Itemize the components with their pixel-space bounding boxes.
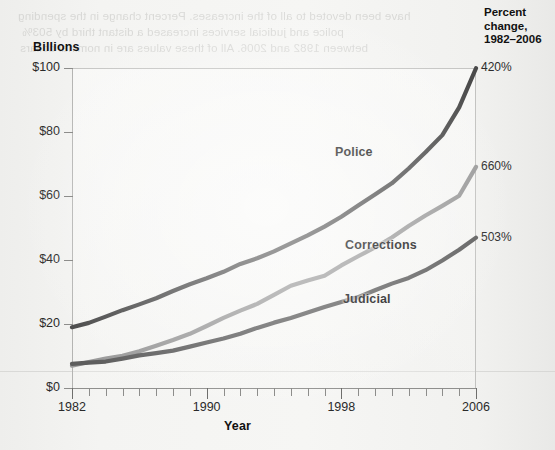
y-axis-tick: [64, 132, 73, 133]
percent-change-police: 420%: [481, 60, 512, 74]
y-axis-tick-label: $40: [39, 252, 60, 266]
right-axis-title-line-1: Percent: [484, 6, 552, 20]
x-axis-tick: [207, 388, 208, 399]
x-axis-tick: [240, 388, 241, 396]
x-axis-tick: [190, 388, 191, 396]
y-axis-tick: [64, 196, 73, 197]
x-axis-tick: [375, 388, 376, 396]
y-axis-tick-label: $80: [39, 124, 60, 138]
y-axis-tick-label: $20: [39, 316, 60, 330]
ghost-text-line-2: police and judicial services increased a…: [22, 26, 344, 38]
x-axis-tick: [358, 388, 359, 396]
x-axis-tick-label: 1982: [58, 400, 86, 414]
x-axis-tick: [72, 388, 73, 399]
x-axis-tick: [308, 388, 309, 396]
x-axis-tick: [459, 388, 460, 396]
series-label-corrections: Corrections: [345, 238, 417, 252]
x-axis-tick: [392, 388, 393, 396]
x-axis-tick: [139, 388, 140, 396]
x-axis-tick: [476, 388, 477, 399]
x-axis-tick-label: 1990: [193, 400, 221, 414]
y-axis-tick-label: $100: [32, 60, 60, 74]
x-axis-tick: [426, 388, 427, 396]
series-label-judicial: Judicial: [343, 292, 391, 306]
ghost-text-line-1: have been devoted to all of the increase…: [18, 10, 410, 22]
y-axis-tick-label: $0: [46, 380, 60, 394]
series-label-police: Police: [335, 145, 373, 159]
x-axis-tick-label: 2006: [462, 400, 490, 414]
x-axis-tick: [224, 388, 225, 396]
x-axis-tick: [325, 388, 326, 396]
plot-top-border: [72, 68, 476, 69]
x-axis-tick: [123, 388, 124, 396]
y-axis-labels: $0$20$40$60$80$100: [0, 0, 60, 450]
x-axis-tick: [409, 388, 410, 396]
x-axis-tick: [156, 388, 157, 396]
x-axis-title: Year: [0, 419, 555, 433]
right-axis-title-line-3: 1982–2006: [484, 33, 552, 47]
y-axis-tick: [64, 324, 73, 325]
x-axis-tick: [274, 388, 275, 396]
right-axis-title-line-2: change,: [484, 20, 552, 34]
x-axis-tick: [257, 388, 258, 396]
percent-change-corrections: 660%: [481, 159, 512, 173]
x-axis-title-text: Year: [224, 419, 251, 433]
x-axis-tick: [341, 388, 342, 399]
y-axis-tick: [64, 260, 73, 261]
x-axis-tick: [106, 388, 107, 396]
x-axis-tick-label: 1998: [327, 400, 355, 414]
right-axis-title: Percent change, 1982–2006: [484, 6, 552, 47]
x-axis-tick: [442, 388, 443, 396]
plot-area: [72, 68, 476, 388]
y-axis-tick: [64, 68, 73, 69]
x-axis-tick: [89, 388, 90, 396]
x-axis-tick: [173, 388, 174, 396]
x-axis-tick: [291, 388, 292, 396]
y-axis-tick-label: $60: [39, 188, 60, 202]
percent-change-judicial: 503%: [481, 230, 512, 244]
